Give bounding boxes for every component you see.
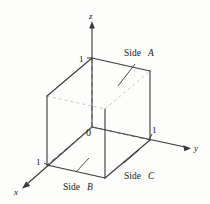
- side-a-leader-line: [118, 64, 135, 86]
- side-b-letter: B: [87, 182, 93, 192]
- y-axis-tick-label: 1: [152, 125, 157, 135]
- side-c-letter: C: [148, 171, 155, 181]
- y-axis-group: y 1: [92, 125, 198, 153]
- side-b-callout: Side B: [63, 158, 93, 193]
- edge-topfront-left-to-right: [47, 96, 105, 109]
- side-a-label: Side A: [124, 42, 154, 59]
- z-axis-arrowhead: [89, 21, 95, 29]
- y-axis-label: y: [193, 143, 198, 153]
- x-axis-tick-label: 1: [36, 157, 41, 167]
- unit-cube-diagram: z 1 y 1 x 1 0: [0, 0, 210, 204]
- side-b-leader-line: [76, 158, 89, 172]
- edge-topfront-right-to-backright: [105, 71, 150, 109]
- side-b-word: Side: [63, 182, 80, 192]
- edge-top-back-left: [47, 58, 92, 96]
- cube-visible-edges: [47, 58, 150, 178]
- side-c-label: Side C: [124, 165, 155, 182]
- figure-canvas: z 1 y 1 x 1 0: [0, 0, 210, 204]
- side-a-callout: Side A: [118, 42, 154, 86]
- x-axis-label: x: [13, 187, 18, 197]
- side-b-label: Side B: [63, 176, 93, 193]
- y-axis-line: [92, 127, 185, 147]
- y-axis-arrowhead: [183, 145, 191, 151]
- cube-hidden-edges: [47, 58, 150, 165]
- side-c-word: Side: [124, 171, 141, 181]
- z-axis-label: z: [88, 11, 93, 21]
- z-axis-tick-label: 1: [79, 54, 84, 64]
- edge-top-back-right: [92, 58, 150, 71]
- side-c-leader-line: [124, 150, 139, 163]
- side-c-callout: Side C: [124, 150, 155, 182]
- side-a-word: Side: [124, 48, 141, 58]
- cube-faint-edges: [47, 71, 150, 109]
- side-a-letter: A: [147, 48, 154, 58]
